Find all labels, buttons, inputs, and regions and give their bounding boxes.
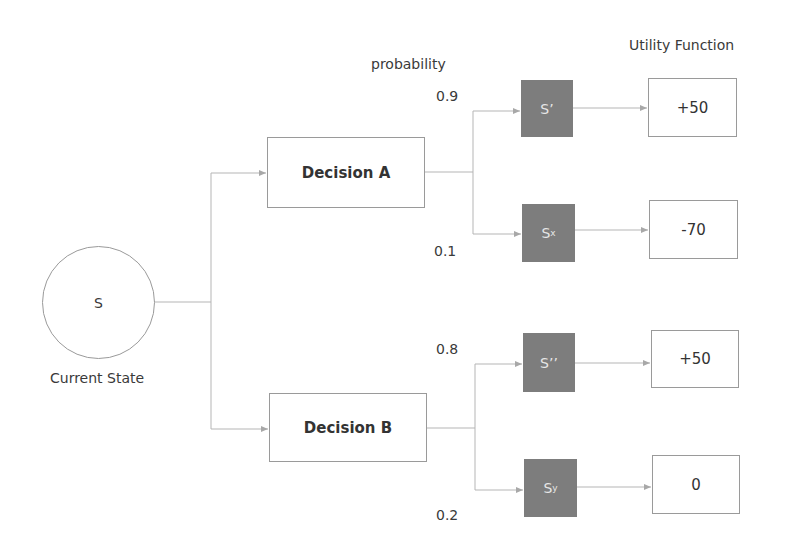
utility-function-header: Utility Function [629, 37, 734, 53]
decision-a-label: Decision A [302, 164, 391, 182]
state-s-y: Sy [524, 459, 577, 517]
probability-b1: 0.8 [436, 341, 458, 357]
probability-header: probability [371, 56, 446, 72]
state-s-x-subscript: x [550, 228, 555, 238]
state-s-x-label: S [541, 225, 550, 241]
utility-value-b2: 0 [691, 476, 701, 494]
current-state-node: S [42, 246, 155, 359]
utility-value-b1: +50 [679, 350, 711, 368]
state-s-double-prime-label: S’’ [540, 355, 558, 371]
probability-b2: 0.2 [436, 507, 458, 523]
decision-b-box: Decision B [269, 393, 427, 462]
utility-box-a2: -70 [649, 200, 738, 259]
state-s-y-subscript: y [552, 483, 557, 493]
current-state-caption: Current State [50, 370, 144, 386]
utility-box-a1: +50 [648, 78, 737, 137]
probability-a2: 0.1 [434, 243, 456, 259]
decision-b-label: Decision B [304, 419, 392, 437]
decision-a-box: Decision A [267, 137, 425, 208]
probability-a1: 0.9 [436, 88, 458, 104]
utility-value-a2: -70 [681, 221, 706, 239]
current-state-symbol: S [94, 295, 103, 311]
utility-box-b1: +50 [651, 330, 739, 388]
state-s-double-prime: S’’ [523, 333, 575, 392]
utility-value-a1: +50 [677, 99, 709, 117]
utility-box-b2: 0 [652, 455, 740, 514]
state-s-x: Sx [522, 204, 575, 262]
state-s-prime: S’ [521, 80, 573, 137]
state-s-prime-label: S’ [540, 101, 553, 117]
state-s-y-label: S [543, 480, 552, 496]
